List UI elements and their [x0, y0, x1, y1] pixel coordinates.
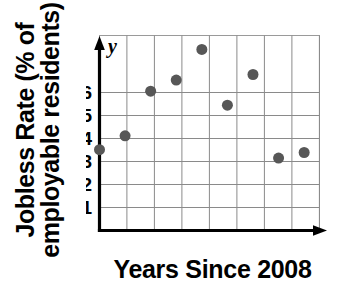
data-point [120, 130, 131, 141]
y-tick-label-4: 4 [86, 128, 92, 149]
y-axis-title-text: Jobless Rate (% of employable residents) [13, 2, 64, 258]
y-tick-labels: 6 5 4 3 2 1 [86, 82, 92, 218]
plot-area: y x 6 5 4 3 2 1 O 1 2 3 4 5 6 7 [86, 33, 334, 238]
data-point [196, 44, 207, 55]
y-axis-arrow [94, 36, 105, 50]
x-axis-title: Years Since 2008 [80, 255, 345, 284]
data-point [94, 144, 105, 155]
data-point [171, 75, 182, 86]
y-axis-variable-label: y [106, 35, 117, 58]
data-point [222, 100, 233, 111]
data-point [299, 147, 310, 158]
data-point [247, 69, 258, 80]
y-tick-label-3: 3 [86, 151, 92, 172]
vertical-gridlines [127, 36, 320, 231]
scatter-plot-figure: Jobless Rate (% of employable residents)… [0, 0, 358, 297]
y-tick-label-6: 6 [86, 82, 92, 103]
data-points-layer [94, 44, 310, 164]
y-tick-label-2: 2 [86, 174, 92, 195]
data-point [273, 153, 284, 164]
y-tick-label-5: 5 [86, 105, 92, 126]
data-point [145, 86, 156, 97]
y-tick-label-1: 1 [86, 197, 92, 218]
y-axis-title: Jobless Rate (% of employable residents) [3, 0, 73, 260]
